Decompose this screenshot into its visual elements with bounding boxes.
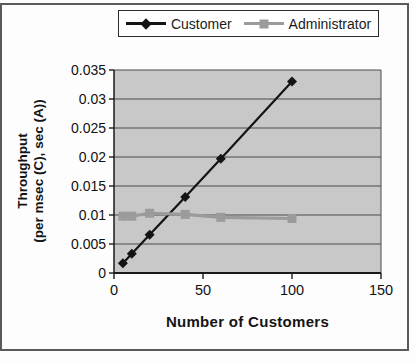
y-tick-label: 0.01 xyxy=(36,207,106,223)
y-tick-label: 0.015 xyxy=(36,178,106,194)
marker-square-icon xyxy=(127,212,136,221)
x-tick-label: 150 xyxy=(359,282,403,299)
marker-square-icon xyxy=(145,209,154,218)
y-tick-label: 0.035 xyxy=(36,62,106,78)
figure: CustomerAdministrator Throughput (per ms… xyxy=(0,0,415,363)
marker-square-icon xyxy=(216,213,225,222)
marker-square-icon xyxy=(288,214,297,223)
y-tick-label: 0.02 xyxy=(36,149,106,165)
x-tick-label: 0 xyxy=(92,282,136,299)
x-tick-label: 100 xyxy=(270,282,314,299)
plot-area xyxy=(114,70,381,273)
y-tick-label: 0.025 xyxy=(36,120,106,136)
y-tick-label: 0.005 xyxy=(36,236,106,252)
y-tick-label: 0 xyxy=(36,265,106,281)
y-tick-label: 0.03 xyxy=(36,91,106,107)
x-axis-title: Number of Customers xyxy=(114,313,381,330)
x-tick-label: 50 xyxy=(181,282,225,299)
marker-square-icon xyxy=(118,212,127,221)
marker-square-icon xyxy=(181,210,190,219)
